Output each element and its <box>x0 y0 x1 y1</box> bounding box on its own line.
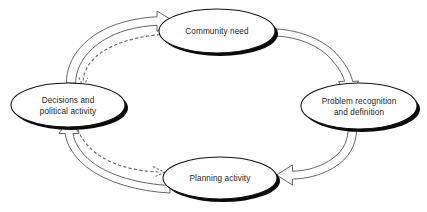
node-community-need[interactable]: Community need <box>159 9 278 56</box>
node-label-line-2: and definition <box>334 108 384 117</box>
node-label-line-1: Planning activity <box>190 174 252 183</box>
arrow-problem-recognition-to-planning-activity <box>277 131 357 185</box>
node-label-line-1: Problem recognition <box>322 97 397 106</box>
diagram-canvas: Community need Problem recognition and d… <box>0 0 427 212</box>
node-planning-activity[interactable]: Planning activity <box>163 157 280 202</box>
node-shape <box>301 83 417 129</box>
node-label-line-1: Community need <box>185 27 249 36</box>
arrow-decisions-to-community-need <box>66 11 173 83</box>
cycle-diagram: Community need Problem recognition and d… <box>0 0 427 212</box>
node-problem-recognition[interactable]: Problem recognition and definition <box>301 83 420 132</box>
node-shape <box>11 83 125 127</box>
node-decisions-political-activity[interactable]: Decisions and political activity <box>11 83 128 130</box>
node-label-line-1: Decisions and <box>42 96 95 105</box>
node-label-line-2: political activity <box>40 107 97 116</box>
